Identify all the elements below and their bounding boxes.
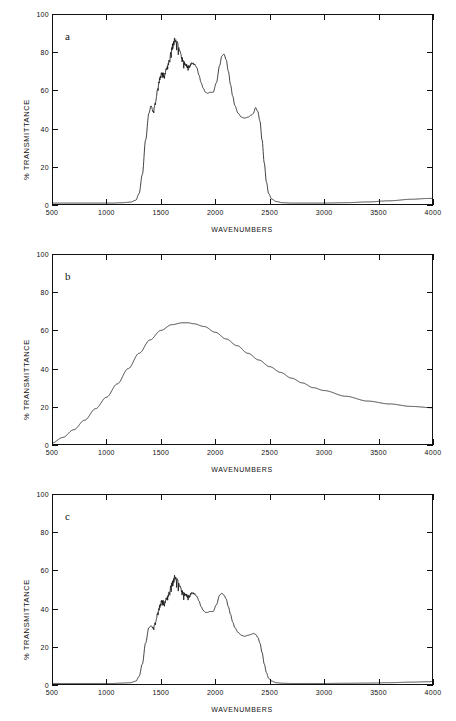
x-axis-title-c: WAVENUMBERS — [211, 706, 272, 713]
x-tick-bottom-2500 — [270, 679, 271, 685]
x-tick-label-2000: 2000 — [207, 449, 224, 456]
y-tick-label-0: 0 — [24, 442, 49, 449]
x-tick-top-4000 — [433, 494, 434, 500]
x-tick-label-3500: 3500 — [370, 449, 387, 456]
y-tick-label-100: 100 — [24, 491, 49, 498]
y-tick-left-60 — [52, 330, 58, 331]
x-axis-title-b: WAVENUMBERS — [211, 466, 272, 473]
x-tick-bottom-4000 — [433, 679, 434, 685]
spectrum-path-b — [52, 323, 433, 443]
x-tick-bottom-1500 — [161, 199, 162, 205]
y-tick-right-100 — [427, 14, 433, 15]
y-tick-right-80 — [427, 52, 433, 53]
y-tick-right-60 — [427, 90, 433, 91]
x-tick-label-3000: 3000 — [316, 449, 333, 456]
x-tick-top-2500 — [270, 494, 271, 500]
x-tick-top-1000 — [106, 14, 107, 20]
x-tick-bottom-1000 — [106, 439, 107, 445]
y-tick-right-60 — [427, 330, 433, 331]
y-tick-left-0 — [52, 685, 58, 686]
spectra-figure: % TRANSMITTANCE a WAVENUMBERS 5001000150… — [0, 0, 456, 721]
x-tick-label-4000: 4000 — [425, 449, 442, 456]
spectrum-curve-a — [52, 14, 433, 205]
x-tick-top-3000 — [324, 14, 325, 20]
y-tick-label-80: 80 — [24, 289, 49, 296]
x-tick-top-1000 — [106, 254, 107, 260]
plot-area-b: b — [52, 254, 433, 445]
x-tick-label-2000: 2000 — [207, 209, 224, 216]
x-tick-bottom-3000 — [324, 439, 325, 445]
y-tick-left-100 — [52, 14, 58, 15]
plot-area-a: a — [52, 14, 433, 205]
x-tick-top-2500 — [270, 254, 271, 260]
y-tick-label-100: 100 — [24, 251, 49, 258]
y-tick-left-40 — [52, 129, 58, 130]
y-tick-label-80: 80 — [24, 49, 49, 56]
y-tick-left-80 — [52, 52, 58, 53]
y-tick-left-80 — [52, 532, 58, 533]
y-tick-right-40 — [427, 129, 433, 130]
y-tick-label-20: 20 — [24, 403, 49, 410]
y-tick-left-20 — [52, 167, 58, 168]
x-tick-top-4000 — [433, 14, 434, 20]
x-tick-label-2500: 2500 — [261, 449, 278, 456]
x-tick-top-2000 — [215, 254, 216, 260]
y-tick-label-20: 20 — [24, 643, 49, 650]
x-tick-top-1500 — [161, 494, 162, 500]
y-tick-right-0 — [427, 685, 433, 686]
y-tick-label-60: 60 — [24, 327, 49, 334]
y-tick-right-0 — [427, 445, 433, 446]
y-tick-left-0 — [52, 205, 58, 206]
y-tick-right-0 — [427, 205, 433, 206]
x-tick-label-3500: 3500 — [370, 209, 387, 216]
y-tick-right-20 — [427, 647, 433, 648]
y-tick-left-40 — [52, 609, 58, 610]
y-tick-left-0 — [52, 445, 58, 446]
x-tick-top-1000 — [106, 494, 107, 500]
y-tick-left-60 — [52, 90, 58, 91]
panel-c: % TRANSMITTANCE c WAVENUMBERS 5001000150… — [0, 480, 456, 720]
x-tick-bottom-3000 — [324, 679, 325, 685]
y-tick-label-100: 100 — [24, 11, 49, 18]
y-tick-right-100 — [427, 494, 433, 495]
spectrum-path-c — [52, 575, 433, 683]
x-tick-top-2000 — [215, 494, 216, 500]
y-tick-label-40: 40 — [24, 605, 49, 612]
x-tick-label-1000: 1000 — [98, 449, 115, 456]
x-tick-bottom-4000 — [433, 199, 434, 205]
x-tick-top-2500 — [270, 14, 271, 20]
x-tick-bottom-3500 — [379, 199, 380, 205]
x-tick-label-2000: 2000 — [207, 689, 224, 696]
x-tick-bottom-1000 — [106, 199, 107, 205]
x-tick-label-3500: 3500 — [370, 689, 387, 696]
panel-a: % TRANSMITTANCE a WAVENUMBERS 5001000150… — [0, 0, 456, 240]
x-tick-label-1500: 1500 — [152, 689, 169, 696]
y-tick-label-40: 40 — [24, 125, 49, 132]
x-tick-top-4000 — [433, 254, 434, 260]
x-tick-label-2500: 2500 — [261, 689, 278, 696]
y-tick-right-60 — [427, 570, 433, 571]
y-tick-label-20: 20 — [24, 163, 49, 170]
x-tick-top-3000 — [324, 494, 325, 500]
x-tick-label-500: 500 — [46, 209, 59, 216]
x-tick-bottom-3500 — [379, 439, 380, 445]
x-tick-bottom-1500 — [161, 679, 162, 685]
x-tick-top-3000 — [324, 254, 325, 260]
x-tick-label-4000: 4000 — [425, 689, 442, 696]
x-tick-label-3000: 3000 — [316, 689, 333, 696]
y-tick-left-60 — [52, 570, 58, 571]
x-tick-bottom-4000 — [433, 439, 434, 445]
y-tick-left-100 — [52, 254, 58, 255]
y-tick-right-40 — [427, 369, 433, 370]
y-tick-left-20 — [52, 407, 58, 408]
x-tick-label-1000: 1000 — [98, 689, 115, 696]
x-tick-label-1500: 1500 — [152, 449, 169, 456]
y-tick-right-80 — [427, 292, 433, 293]
x-tick-bottom-2500 — [270, 439, 271, 445]
x-tick-label-500: 500 — [46, 689, 59, 696]
x-tick-top-1500 — [161, 14, 162, 20]
x-tick-bottom-3500 — [379, 679, 380, 685]
x-tick-label-3000: 3000 — [316, 209, 333, 216]
x-tick-top-2000 — [215, 14, 216, 20]
x-tick-bottom-1500 — [161, 439, 162, 445]
